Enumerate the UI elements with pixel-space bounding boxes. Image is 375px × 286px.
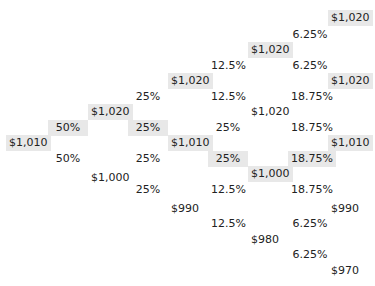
probability-label-highlighted: 25% bbox=[208, 151, 248, 167]
price-node: $1,000 bbox=[88, 170, 133, 186]
probability-label: 12.5% bbox=[208, 58, 249, 74]
probability-label: 25% bbox=[128, 151, 168, 167]
price-node-highlighted: $1,010 bbox=[168, 135, 213, 151]
probability-label: 12.5% bbox=[208, 89, 249, 105]
probability-label: 50% bbox=[48, 151, 88, 167]
price-node-highlighted: $1,020 bbox=[328, 10, 373, 26]
price-node-highlighted: $1,020 bbox=[88, 104, 133, 120]
price-node-highlighted: $1,010 bbox=[328, 135, 373, 151]
probability-label: 18.75% bbox=[288, 89, 336, 105]
price-node-highlighted: $1,010 bbox=[6, 135, 51, 151]
price-node: $1,020 bbox=[248, 104, 293, 120]
price-node: $980 bbox=[248, 232, 282, 248]
probability-label: 6.25% bbox=[288, 27, 332, 43]
probability-label: 18.75% bbox=[288, 182, 336, 198]
price-node: $970 bbox=[328, 263, 362, 279]
price-node-highlighted: $1,020 bbox=[328, 73, 373, 89]
probability-label: 18.75% bbox=[288, 120, 336, 136]
binomial-price-tree: $1,01050%50%$1,020$1,00025%25%25%25%$1,0… bbox=[0, 0, 375, 286]
probability-label: 6.25% bbox=[288, 216, 332, 232]
price-node: $990 bbox=[328, 201, 362, 217]
price-node: $990 bbox=[168, 201, 202, 217]
probability-label-highlighted: 25% bbox=[128, 120, 168, 136]
probability-label-highlighted: 50% bbox=[48, 120, 88, 136]
price-node-highlighted: $1,020 bbox=[168, 73, 213, 89]
probability-label: 12.5% bbox=[208, 182, 249, 198]
probability-label: 25% bbox=[128, 89, 168, 105]
probability-label: 12.5% bbox=[208, 216, 249, 232]
probability-label: 25% bbox=[208, 120, 248, 136]
probability-label-highlighted: 18.75% bbox=[288, 151, 336, 167]
probability-label: 25% bbox=[128, 182, 168, 198]
probability-label: 6.25% bbox=[288, 247, 332, 263]
price-node-highlighted: $1,000 bbox=[248, 166, 293, 182]
price-node-highlighted: $1,020 bbox=[248, 42, 293, 58]
probability-label: 6.25% bbox=[288, 58, 332, 74]
